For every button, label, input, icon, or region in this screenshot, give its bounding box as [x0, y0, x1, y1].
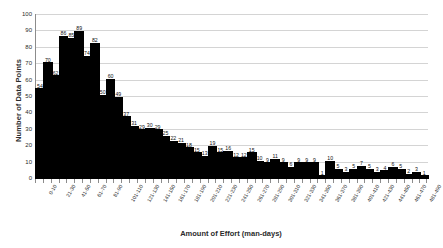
y-axis-tick-labels: 0102030405060708090100: [14, 14, 32, 178]
y-tick-label: 60: [14, 77, 32, 83]
bar-item: 10: [256, 14, 264, 178]
y-tick-label: 70: [14, 60, 32, 66]
bar-value-label: 1: [423, 171, 426, 176]
bar-value-label: 22: [170, 136, 176, 141]
bar: [263, 163, 271, 178]
bar-item: 19: [209, 14, 217, 178]
x-tick-label: 61-70: [97, 184, 108, 198]
bar-item: 13: [201, 14, 209, 178]
x-tick-label: 41-50: [81, 184, 92, 198]
bar-value-label: 2: [407, 169, 410, 174]
bar-item: 3: [413, 14, 421, 178]
bar: [224, 152, 232, 178]
bar: [248, 153, 256, 178]
bar: [209, 147, 217, 178]
bar-item: 15: [216, 14, 224, 178]
bar-item: 29: [138, 14, 146, 178]
x-tick-label: 81-90: [112, 184, 123, 198]
bar-item: 15: [248, 14, 256, 178]
bar: [397, 170, 405, 178]
x-tick-label: 461-470: [413, 184, 427, 203]
bar-value-label: 37: [123, 112, 129, 117]
bar-value-label: 9: [297, 158, 300, 163]
bar-item: 37: [122, 14, 130, 178]
bar-value-label: 7: [360, 161, 363, 166]
bar-value-label: 10: [327, 156, 333, 161]
bar-value-label: 29: [155, 125, 161, 130]
bar-value-label: 50: [100, 90, 106, 95]
y-tick-label: 30: [14, 126, 32, 132]
bar-value-label: 4: [384, 166, 387, 171]
bar: [146, 129, 154, 178]
bar: [60, 37, 68, 178]
bar-value-label: 82: [92, 38, 98, 43]
x-axis-tick-labels: 0-1021-3041-5061-7081-90101-110121-13014…: [35, 184, 427, 226]
bar: [36, 89, 44, 178]
x-tick-label: 221-230: [225, 184, 239, 203]
bar-item: 5: [334, 14, 342, 178]
bar: [169, 142, 177, 178]
bar-value-label: 12: [241, 153, 247, 158]
bar-value-label: 54: [37, 84, 43, 89]
bar-item: 9: [279, 14, 287, 178]
bar-item: 7: [358, 14, 366, 178]
bar-value-label: 89: [76, 26, 82, 31]
x-tick-label: 421-430: [382, 184, 396, 203]
bar: [52, 76, 60, 178]
bar: [67, 39, 75, 178]
bar: [389, 168, 397, 178]
bar-item: 31: [130, 14, 138, 178]
x-tick-label: 201-210: [209, 184, 223, 203]
bar-item: 6: [389, 14, 397, 178]
x-tick-label: 141-150: [162, 184, 176, 203]
bar-value-label: 3: [376, 167, 379, 172]
bar-value-label: 86: [61, 31, 67, 36]
bar-value-label: 49: [115, 92, 121, 97]
y-tick-label: 90: [14, 27, 32, 33]
bar-value-label: 6: [391, 162, 394, 167]
bar-item: 22: [169, 14, 177, 178]
y-tick-label: 10: [14, 159, 32, 165]
bar-item: 5: [350, 14, 358, 178]
bar-item: 2: [405, 14, 413, 178]
x-tick-label: 0-10: [48, 184, 58, 196]
bar: [350, 170, 358, 178]
bar-item: 5: [365, 14, 373, 178]
bar-value-label: 70: [45, 58, 51, 63]
bar: [232, 158, 240, 178]
bar: [326, 162, 334, 178]
y-tick-label: 20: [14, 142, 32, 148]
bar: [201, 157, 209, 178]
bar-item: 89: [75, 14, 83, 178]
bar-value-label: 31: [131, 121, 137, 126]
bar-item: 10: [326, 14, 334, 178]
x-tick-label: 101-110: [131, 184, 145, 203]
bar-item: 18: [185, 14, 193, 178]
bar: [256, 162, 264, 178]
x-tick-label: 481-490: [429, 184, 443, 203]
bar: [185, 148, 193, 178]
bar: [177, 144, 185, 178]
plot-area: 5470628685897482506049373129302925222118…: [35, 14, 428, 179]
bar-value-label: 3: [415, 167, 418, 172]
bar-value-label: 74: [84, 51, 90, 56]
bar-item: 62: [52, 14, 60, 178]
x-tick-label: 161-170: [178, 184, 192, 203]
bar-item: 85: [67, 14, 75, 178]
bar-value-label: 19: [210, 141, 216, 146]
bar-value-label: 5: [352, 164, 355, 169]
bar: [130, 127, 138, 178]
bar-value-label: 9: [266, 158, 269, 163]
bar-item: 25: [162, 14, 170, 178]
bar-item: 16: [224, 14, 232, 178]
bar-value-label: 6: [289, 162, 292, 167]
bar: [311, 163, 319, 178]
bar: [318, 176, 326, 178]
bar: [279, 163, 287, 178]
bar-item: 9: [303, 14, 311, 178]
bar: [162, 137, 170, 178]
bar: [99, 96, 107, 178]
bar-item: 50: [99, 14, 107, 178]
bar: [405, 175, 413, 178]
